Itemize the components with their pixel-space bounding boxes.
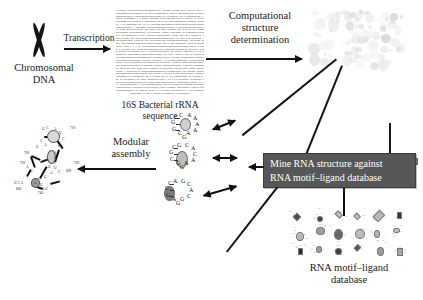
database-base-label: G: [394, 250, 396, 253]
database-base-label: A: [362, 215, 364, 218]
motif-base-pair-bond: [176, 124, 180, 125]
database-motif-cell: GGCAU: [291, 225, 310, 241]
database-base-label: A: [301, 219, 303, 222]
motif-base: G: [181, 178, 185, 184]
database-base-label: C: [397, 216, 399, 219]
rna-base-label: C: [62, 138, 64, 142]
database-motif-cell: GUUGA: [391, 242, 410, 258]
ribosome-blob: [367, 18, 372, 21]
motif-base: G: [180, 164, 184, 170]
sequence-text-block: g uuugca cuaucuaGuUgGgggagUuugcCcgA aCcG…: [116, 10, 204, 98]
mine-rna-line2: RNA motif–ligand database: [270, 171, 409, 185]
database-base-label: G: [360, 228, 362, 231]
database-label-line1: RNA motif–ligand: [288, 262, 410, 274]
motif-base: G: [180, 196, 184, 202]
transcription-label-text: Transcription: [64, 33, 115, 43]
database-motif-cell: UAUAC: [389, 207, 408, 223]
rna-base-label: C: [46, 127, 48, 131]
motif-base-pair-bond: [170, 196, 174, 197]
ribosome-blob: [368, 25, 372, 30]
ribosome-blob: [351, 35, 361, 44]
database-base-label: C: [336, 229, 338, 232]
ribosome-blob: [364, 30, 369, 34]
rna-position-label: 720: [74, 162, 79, 166]
database-base-label: A: [359, 241, 361, 244]
database-base-label: U: [377, 240, 379, 243]
rna-backbone-segment: [50, 180, 60, 185]
database-ligand-shape: [317, 216, 323, 222]
database-ligand-shape: [298, 248, 303, 255]
motif-middle-link-arrow: [213, 157, 237, 159]
rna-base-label: G: [58, 145, 61, 149]
motif-base: G: [166, 192, 170, 198]
ribosome-blob: [379, 62, 387, 72]
motif-base: C: [187, 193, 191, 199]
rna-base-label: A: [44, 144, 47, 148]
motif-base-pair-bond: [174, 148, 178, 149]
motif-top-link-arrow: [212, 120, 235, 131]
database-base-label: U: [293, 215, 295, 218]
rna-position-label: 740: [38, 192, 43, 196]
database-base-label: C: [400, 225, 402, 228]
ribosome-blob: [388, 49, 393, 52]
database-base-label: C: [373, 218, 375, 221]
mine-rna-box[interactable]: Mine RNA structure against RNA motif–lig…: [263, 153, 416, 188]
database-base-label: G: [291, 243, 293, 246]
ribosome-blob: [309, 53, 320, 66]
database-base-label: U: [356, 213, 358, 216]
database-base-label: U: [336, 245, 338, 248]
database-base-label: C: [358, 248, 360, 251]
database-base-label: U: [404, 249, 406, 252]
database-base-label: G: [304, 234, 306, 237]
database-base-label: A: [402, 255, 404, 258]
database-motif-cell: UCAUC: [330, 205, 349, 221]
rna-base-label: A: [50, 172, 53, 176]
database-base-label: G: [316, 214, 318, 217]
database-base-label: A: [292, 213, 294, 216]
motif-base: A: [193, 127, 197, 133]
rna-extra-label: A G: [42, 188, 48, 192]
chromosome-label-line1: Chromosomal: [0, 62, 88, 74]
motif-bottom: AGCACGAGCCG: [156, 178, 202, 208]
ribosome-blob: [328, 18, 340, 32]
ribosome-blob: [359, 10, 362, 14]
motif-base-pair-bond: [170, 184, 174, 185]
database-base-label: G: [297, 217, 299, 220]
database-base-label: A: [318, 243, 320, 246]
ribosome-blob: [316, 33, 323, 37]
ribosome-blob: [400, 15, 403, 19]
modular-label-line2: assembly: [96, 148, 166, 160]
database-motif-cell: GUUCA: [370, 239, 389, 255]
database-base-label: U: [321, 213, 323, 216]
rna-base-label: G: [42, 128, 45, 132]
rna-base-label: A: [26, 166, 29, 170]
computational-label-line3: determination: [208, 34, 312, 46]
ribosome-blob: [370, 62, 379, 70]
rna-position-label: 710: [70, 127, 75, 131]
motif-base: C: [168, 180, 172, 186]
motif-base: A: [191, 157, 195, 163]
chromosome-label: Chromosomal DNA: [0, 62, 88, 86]
database-base-label: G: [338, 245, 340, 248]
database-motif-cell: UGGUU: [290, 242, 309, 258]
database-base-label: C: [332, 214, 334, 217]
database-base-label: A: [372, 230, 374, 233]
rna-position-label: 730: [20, 162, 25, 166]
motif-base: G: [172, 126, 176, 132]
motif-base-pair-bond: [170, 190, 174, 191]
motif-base-pair-bond: [174, 160, 178, 161]
mine-to-motifs-arrow: [249, 166, 264, 168]
database-motif-cell: UACAU: [309, 222, 328, 238]
sequence-label-line1: 16S Bacterial rRNA: [112, 100, 208, 111]
motif-top: CAAAAACGGCG: [162, 112, 210, 140]
database-base-label: A: [354, 244, 356, 247]
database-base-label: A: [315, 232, 317, 235]
database-base-label: C: [361, 245, 363, 248]
database-base-label: U: [304, 244, 306, 247]
ribosome-blob: [348, 58, 357, 63]
rna-base-label: A: [54, 128, 57, 132]
database-base-label: C: [385, 242, 387, 245]
ribosome-blob: [352, 46, 355, 48]
ribosome-blob: [324, 52, 328, 55]
database-base-label: C: [295, 230, 297, 233]
